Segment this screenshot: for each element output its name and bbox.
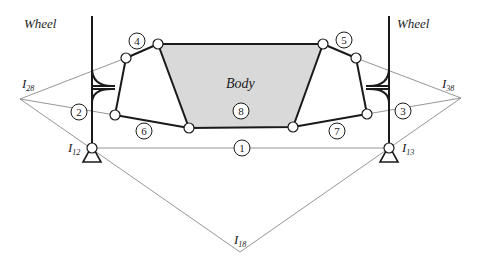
svg-text:7: 7 xyxy=(334,125,340,137)
body-label: Body xyxy=(226,76,256,91)
link-6 xyxy=(115,115,189,128)
joint-upper-left xyxy=(121,53,131,63)
upright-left xyxy=(115,58,126,115)
svg-text:3: 3 xyxy=(400,105,406,117)
label-I13: I13 xyxy=(401,140,414,157)
link-number-6: 6 xyxy=(136,123,152,139)
joint-body-br xyxy=(288,122,298,132)
link-7 xyxy=(293,114,367,127)
right-wheel xyxy=(366,16,389,148)
joint-lower-left xyxy=(110,110,120,120)
label-I28: I28 xyxy=(21,76,34,93)
link-number-2: 2 xyxy=(71,104,87,120)
svg-text:2: 2 xyxy=(76,106,82,118)
svg-text:5: 5 xyxy=(341,34,347,46)
joint-upper-right xyxy=(351,53,361,63)
line-I38-joint3 xyxy=(367,98,461,114)
link-number-1: 1 xyxy=(234,140,250,156)
wheel-label-left: Wheel xyxy=(24,16,57,31)
left-wheel xyxy=(92,16,115,148)
joint-body-tr xyxy=(318,39,328,49)
label-I18: I18 xyxy=(233,232,246,249)
link-number-5: 5 xyxy=(336,32,352,48)
svg-text:1: 1 xyxy=(239,142,245,154)
joint-lower-right xyxy=(362,109,372,119)
ground-pivot-left xyxy=(83,143,101,162)
upright-right xyxy=(356,58,367,114)
joint-body-tl xyxy=(153,39,163,49)
svg-text:6: 6 xyxy=(141,125,147,137)
label-I38: I38 xyxy=(441,76,454,93)
svg-text:8: 8 xyxy=(238,105,244,117)
joint-body-bl xyxy=(184,123,194,133)
label-I12: I12 xyxy=(67,140,80,157)
svg-text:4: 4 xyxy=(134,35,140,47)
link-number-3: 3 xyxy=(395,103,411,119)
link-number-4: 4 xyxy=(129,33,145,49)
wheel-label-right: Wheel xyxy=(397,16,430,31)
link-number-8: 8 xyxy=(233,103,249,119)
link-number-7: 7 xyxy=(329,123,345,139)
line-I28-joint4 xyxy=(20,58,126,99)
line-I28-joint2 xyxy=(20,99,115,115)
suspension-linkage-diagram: 1 2 3 4 5 6 7 8 Wheel Wheel Body I28 I38… xyxy=(0,0,480,268)
